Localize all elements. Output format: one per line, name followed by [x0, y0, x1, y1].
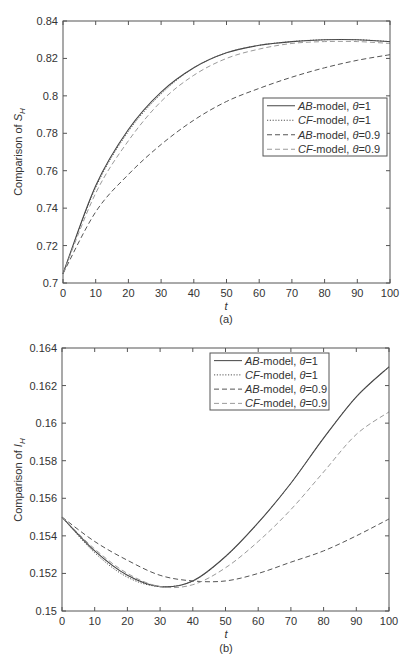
x-tick-label: 90	[351, 287, 363, 299]
x-axis-label-a: t	[224, 300, 228, 312]
series-line	[62, 412, 389, 588]
x-tick-label: 40	[187, 615, 199, 627]
y-tick-label: 0.82	[37, 52, 58, 64]
legend-entry: AB-model, θ=1	[297, 100, 371, 112]
x-tick-label: 100	[380, 615, 398, 627]
legend-entry: CF-model, θ=1	[245, 369, 318, 381]
series-line	[63, 39, 390, 273]
x-tick-label: 10	[90, 287, 102, 299]
legend-a: AB-model, θ=1CF-model, θ=1AB-model, θ=0.…	[263, 98, 387, 156]
x-tick-label: 50	[220, 287, 232, 299]
y-tick-label: 0.152	[29, 567, 57, 579]
y-tick-label: 0.76	[37, 165, 58, 177]
x-tick-label: 80	[318, 287, 330, 299]
x-tick-label: 70	[286, 287, 298, 299]
x-tick-label: 10	[89, 615, 101, 627]
x-tick-label: 100	[381, 287, 399, 299]
y-tick-label: 0.156	[29, 492, 57, 504]
legend-entry: AB-model, θ=1	[244, 355, 318, 367]
ticks-a: 01020304050607080901000.70.720.740.760.7…	[37, 15, 400, 299]
x-tick-label: 70	[285, 615, 297, 627]
y-tick-label: 0.16	[36, 417, 57, 429]
x-tick-label: 20	[121, 615, 133, 627]
y-tick-label: 0.164	[29, 342, 57, 354]
y-tick-label: 0.72	[37, 240, 58, 252]
x-tick-label: 30	[155, 287, 167, 299]
x-axis-label-b: t	[224, 628, 228, 640]
y-tick-label: 0.7	[43, 277, 58, 289]
caption-b: (b)	[219, 642, 232, 654]
y-tick-label: 0.78	[37, 127, 58, 139]
series-line	[62, 517, 389, 582]
y-tick-label: 0.74	[37, 202, 58, 214]
x-tick-label: 0	[60, 287, 66, 299]
caption-a: (a)	[219, 313, 232, 325]
legend-entry: AB-model, θ=0.9	[297, 129, 380, 141]
x-tick-label: 50	[219, 615, 231, 627]
x-tick-label: 80	[317, 615, 329, 627]
figure: 01020304050607080901000.70.720.740.760.7…	[0, 0, 416, 666]
chart-panel-a: 01020304050607080901000.70.720.740.760.7…	[12, 15, 399, 325]
legend-entry: CF-model, θ=1	[298, 114, 371, 126]
x-tick-label: 90	[350, 615, 362, 627]
legend-b: AB-model, θ=1CF-model, θ=1AB-model, θ=0.…	[210, 353, 329, 410]
series-line	[63, 41, 390, 273]
y-tick-label: 0.154	[29, 530, 57, 542]
y-tick-label: 0.162	[29, 380, 57, 392]
x-tick-label: 40	[188, 287, 200, 299]
x-tick-label: 20	[122, 287, 134, 299]
y-tick-label: 0.8	[43, 90, 58, 102]
y-axis-label-b: Comparison of IH	[12, 438, 27, 522]
legend-entry: AB-model, θ=0.9	[244, 383, 327, 395]
legend-entry: CF-model, θ=0.9	[245, 397, 327, 409]
y-tick-label: 0.158	[29, 455, 57, 467]
y-tick-label: 0.84	[37, 15, 58, 27]
y-tick-label: 0.15	[36, 605, 57, 617]
x-tick-label: 60	[253, 287, 265, 299]
x-tick-label: 60	[252, 615, 264, 627]
x-tick-label: 0	[59, 615, 65, 627]
y-axis-label-a: Comparison of SH	[12, 108, 27, 196]
x-tick-label: 30	[154, 615, 166, 627]
plot-lines-a	[63, 39, 390, 273]
chart-panel-b: 01020304050607080901000.150.1520.1540.15…	[12, 342, 398, 654]
legend-entry: CF-model, θ=0.9	[298, 143, 380, 155]
